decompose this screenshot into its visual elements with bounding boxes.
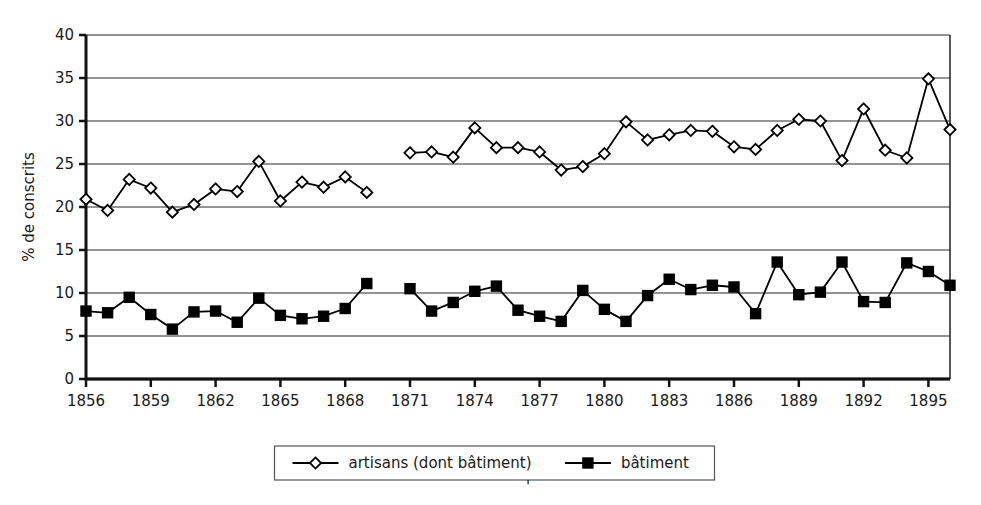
data-point	[81, 306, 91, 316]
y-tick-label: 35	[55, 69, 74, 87]
x-tick-label: 1886	[715, 392, 753, 410]
data-point	[664, 274, 674, 284]
data-point	[685, 125, 696, 136]
y-tick-label: 15	[55, 241, 74, 259]
legend-marker-filled-square	[583, 458, 593, 468]
x-tick-label: 1877	[521, 392, 559, 410]
data-point	[210, 183, 221, 194]
data-point	[448, 297, 458, 307]
data-point	[880, 145, 891, 156]
x-tick-label: 1895	[909, 392, 947, 410]
x-tick-label: 1868	[326, 392, 364, 410]
data-point	[728, 141, 739, 152]
data-point	[815, 115, 826, 126]
data-point	[340, 303, 350, 313]
series-line	[410, 79, 950, 170]
data-point	[124, 174, 135, 185]
data-point	[794, 290, 804, 300]
series-line	[86, 284, 367, 330]
data-point	[923, 267, 933, 277]
data-point	[211, 306, 221, 316]
data-point	[319, 311, 329, 321]
data-point	[599, 148, 610, 159]
data-point	[80, 194, 91, 205]
data-point	[945, 280, 955, 290]
data-point	[362, 279, 372, 289]
legend-label: bâtiment	[621, 454, 689, 472]
data-point	[146, 310, 156, 320]
data-point	[751, 309, 761, 319]
series-1	[80, 73, 955, 218]
data-point	[643, 291, 653, 301]
data-point	[103, 308, 113, 318]
x-axis-group: 1856185918621865186818711874187718801883…	[67, 379, 948, 410]
x-tick-label: 1892	[845, 392, 883, 410]
data-point	[707, 126, 718, 137]
data-point	[902, 258, 912, 268]
y-tick-label: 5	[64, 327, 74, 345]
data-point	[275, 310, 285, 320]
x-tick-label: 1871	[391, 392, 429, 410]
data-point	[188, 199, 199, 210]
legend-label: artisans (dont bâtiment)	[349, 454, 532, 472]
data-point	[599, 304, 609, 314]
data-point	[426, 146, 437, 157]
data-point	[189, 307, 199, 317]
data-point	[404, 147, 415, 158]
x-tick-label: 1880	[585, 392, 623, 410]
data-point	[859, 297, 869, 307]
data-point	[512, 142, 523, 153]
data-point	[837, 257, 847, 267]
x-tick-label: 1874	[456, 392, 494, 410]
x-tick-label: 1859	[132, 392, 170, 410]
y-tick-label: 10	[55, 284, 74, 302]
data-point	[815, 287, 825, 297]
data-point	[535, 311, 545, 321]
y-tick-label: 30	[55, 112, 74, 130]
data-point	[901, 152, 912, 163]
data-point	[318, 182, 329, 193]
data-point	[664, 129, 675, 140]
data-point	[923, 73, 934, 84]
chart-page: 0510152025303540185618591862186518681871…	[0, 0, 981, 505]
y-tick-label: 0	[64, 370, 74, 388]
y-tick-label: 20	[55, 198, 74, 216]
x-tick-label: 1856	[67, 392, 105, 410]
data-point	[621, 316, 631, 326]
data-point	[686, 285, 696, 295]
data-point	[254, 293, 264, 303]
data-point	[232, 317, 242, 327]
data-point	[470, 286, 480, 296]
data-point	[124, 292, 134, 302]
x-tick-label: 1889	[780, 392, 818, 410]
line-chart: 0510152025303540185618591862186518681871…	[0, 0, 981, 505]
data-point	[880, 297, 890, 307]
data-point	[340, 171, 351, 182]
data-point	[297, 314, 307, 324]
data-point	[577, 161, 588, 172]
data-point	[405, 284, 415, 294]
data-point	[578, 285, 588, 295]
y-axis-title: % de conscrits	[20, 152, 38, 262]
data-point	[491, 281, 501, 291]
series-2	[81, 257, 955, 334]
chart-svg: 0510152025303540185618591862186518681871…	[0, 0, 981, 505]
data-point	[729, 282, 739, 292]
x-tick-label: 1883	[650, 392, 688, 410]
data-point	[556, 316, 566, 326]
x-tick-label: 1862	[197, 392, 235, 410]
y-tick-label: 25	[55, 155, 74, 173]
y-tick-label: 40	[55, 26, 74, 44]
data-point	[793, 114, 804, 125]
data-point	[167, 324, 177, 334]
x-tick-label: 1865	[261, 392, 299, 410]
data-point	[513, 305, 523, 315]
data-point	[361, 187, 372, 198]
data-point	[772, 257, 782, 267]
data-point	[707, 280, 717, 290]
data-point	[858, 103, 869, 114]
data-point	[427, 306, 437, 316]
scan-artifact: '	[526, 478, 530, 496]
data-point	[944, 124, 955, 135]
legend: artisans (dont bâtiment)bâtiment	[275, 446, 715, 480]
